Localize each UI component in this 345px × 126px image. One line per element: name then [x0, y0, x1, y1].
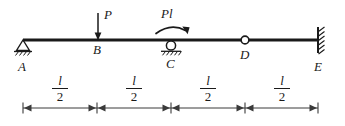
- node-label-d: D: [240, 48, 249, 61]
- ground-hatching: [16, 52, 31, 56]
- dimension-label-segment-3: l 2: [198, 74, 218, 103]
- fraction-denominator: 2: [198, 90, 218, 103]
- fraction-denominator: 2: [272, 90, 292, 103]
- fraction-numerator: l: [198, 74, 218, 88]
- support-fixed-e: [318, 27, 325, 54]
- node-label-b: B: [93, 43, 101, 56]
- support-pin-a: [14, 40, 32, 56]
- node-label-a: A: [18, 60, 26, 73]
- dimension-arrowhead: [163, 105, 171, 112]
- fraction-numerator: l: [124, 74, 144, 88]
- dimension-arrowhead: [246, 105, 254, 112]
- moment-arc: [156, 27, 186, 33]
- pin-triangle-icon: [17, 40, 30, 51]
- beam-diagram: A B C D E P Pl l 2 l 2 l 2 l 2: [0, 0, 345, 126]
- dimension-arrowhead: [98, 105, 106, 112]
- dimension-label-segment-2: l 2: [124, 74, 144, 103]
- node-label-c: C: [166, 57, 175, 70]
- point-load-p-arrow: [95, 13, 102, 40]
- dimension-arrowhead: [172, 105, 180, 112]
- load-label-p: P: [104, 8, 112, 21]
- fraction-numerator: l: [272, 74, 292, 88]
- roller-circle-icon: [166, 41, 175, 50]
- internal-hinge-d-icon: [241, 36, 249, 44]
- moment-arrow-head: [182, 27, 189, 35]
- wall-hatching: [319, 27, 325, 54]
- node-label-e: E: [314, 60, 322, 73]
- load-label-pl: Pl: [161, 7, 173, 20]
- dimension-arrowhead: [24, 105, 32, 112]
- fraction-denominator: 2: [124, 90, 144, 103]
- ground-hatching: [163, 51, 182, 55]
- fraction-numerator: l: [50, 74, 70, 88]
- dimension-arrowhead: [310, 105, 318, 112]
- dimension-label-segment-4: l 2: [272, 74, 292, 103]
- dimension-arrowhead: [237, 105, 245, 112]
- moment-load-pl-arrow: [156, 27, 190, 35]
- support-roller-c: [161, 41, 182, 55]
- dimension-label-segment-1: l 2: [50, 74, 70, 103]
- fraction-denominator: 2: [50, 90, 70, 103]
- dimension-line-group: [23, 103, 318, 114]
- dimension-arrowhead: [89, 105, 97, 112]
